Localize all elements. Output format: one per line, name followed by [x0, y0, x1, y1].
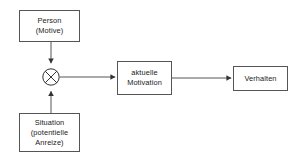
- node-verhalten-line-1: Verhalten: [244, 74, 276, 84]
- node-person-line-2: (Motive): [36, 26, 64, 36]
- node-motivation-line-1: aktuelle: [131, 68, 157, 78]
- diagram-canvas: Person (Motive) Situation (potentielle A…: [0, 0, 307, 162]
- node-person: Person (Motive): [19, 10, 80, 42]
- node-verhalten: Verhalten: [233, 66, 288, 91]
- node-situation-line-1: Situation: [35, 118, 65, 128]
- multiplication-operator-icon: [42, 68, 60, 86]
- node-motivation-line-2: Motivation: [127, 78, 162, 88]
- node-situation: Situation (potentielle Anreize): [19, 113, 80, 152]
- node-person-line-1: Person: [37, 16, 61, 26]
- node-situation-line-3: Anreize): [35, 138, 63, 148]
- node-situation-line-2: (potentielle: [31, 128, 68, 138]
- node-aktuelle-motivation: aktuelle Motivation: [117, 61, 172, 95]
